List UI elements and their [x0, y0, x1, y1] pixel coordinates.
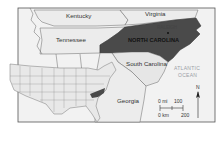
svg-text:N: N — [196, 84, 200, 90]
label-virginia: Virginia — [145, 10, 166, 17]
label-north-carolina: NORTH CAROLINA — [128, 37, 179, 43]
label-tennessee: Tennessee — [56, 36, 86, 43]
label-kentucky: Kentucky — [66, 12, 92, 19]
scale-km-value: 200 — [181, 112, 190, 118]
label-south-carolina: South Carolina — [126, 60, 167, 67]
scale-mi-value: 100 — [174, 98, 183, 104]
map-figure: Kentucky Virginia Tennessee South Caroli… — [0, 0, 218, 143]
label-georgia: Georgia — [117, 97, 140, 104]
capital-marker-icon — [167, 32, 169, 34]
label-ocean: OCEAN — [178, 72, 197, 78]
scale-km-label: 0 km — [158, 112, 169, 118]
label-raleigh: RALEIGH — [157, 25, 177, 30]
scale-mi-label: 0 mi — [158, 98, 167, 104]
label-atlantic: ATLANTIC — [174, 65, 200, 71]
